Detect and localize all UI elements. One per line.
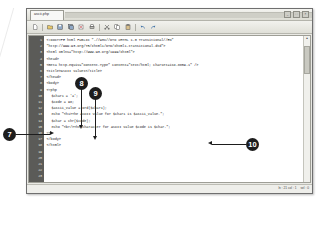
redo-arrow-icon[interactable]: [149, 23, 158, 32]
callout-10-arrowhead: [208, 141, 212, 145]
toolbar-separator: [42, 24, 43, 31]
tab-strip-filler: [65, 12, 312, 18]
toolbar-separator: [135, 24, 136, 31]
scissors-icon[interactable]: [102, 23, 111, 32]
callout-9-arrowhead: [93, 136, 97, 140]
figure-canvas: ascii.php _ □ ×: [0, 0, 327, 227]
save-all-icon[interactable]: [66, 23, 75, 32]
status-bar: ln : 21 col : 1 sel : 0: [27, 184, 312, 193]
toolbar-separator: [99, 24, 100, 31]
scrollbar-thumb[interactable]: [304, 46, 310, 74]
callout-8: 8: [75, 77, 88, 90]
close-button[interactable]: ×: [302, 11, 309, 18]
callout-7-arrowhead: [50, 131, 54, 135]
editor-pane[interactable]: 1 2 3 4 5 6 7 8 9 10 11 12 13 14 15 16 1…: [28, 35, 311, 183]
cursor-position-status: ln : 21 col : 1: [278, 187, 296, 190]
code-line: </html>: [47, 142, 302, 148]
file-tab-label: ascii.php: [34, 13, 49, 17]
callout-8-arrowhead: [79, 125, 83, 129]
selection-status: sel : 0: [300, 187, 309, 190]
open-folder-icon[interactable]: [45, 23, 54, 32]
toolbar: [27, 21, 312, 34]
code-editor-window: ascii.php _ □ ×: [26, 8, 313, 194]
undo-arrow-icon[interactable]: [138, 23, 147, 32]
new-file-icon[interactable]: [30, 23, 39, 32]
save-disk-icon[interactable]: [56, 23, 65, 32]
callout-10-leader: [212, 144, 246, 145]
maximize-button[interactable]: □: [293, 11, 300, 18]
code-text-area[interactable]: <!DOCTYPE html PUBLIC "-//W3C//DTD XHTML…: [44, 36, 304, 182]
close-file-icon[interactable]: [77, 23, 86, 32]
callout-7: 7: [3, 128, 16, 141]
callout-10: 10: [246, 138, 259, 151]
callout-7-leader: [16, 134, 50, 135]
vertical-scrollbar[interactable]: ▲: [303, 36, 310, 182]
line-number: 24: [38, 180, 42, 183]
callout-9: 9: [89, 87, 102, 100]
file-tab-ascii-php[interactable]: ascii.php: [30, 10, 64, 20]
window-controls: _ □ ×: [284, 11, 309, 18]
copy-icon[interactable]: [113, 23, 122, 32]
line-number-gutter: 1 2 3 4 5 6 7 8 9 10 11 12 13 14 15 16 1…: [29, 36, 44, 182]
scroll-up-arrow[interactable]: ▲: [305, 36, 309, 40]
callout-8-leader: [81, 89, 82, 126]
title-bar: ascii.php _ □ ×: [27, 9, 312, 21]
printer-icon[interactable]: [87, 23, 96, 32]
callout-9-leader: [95, 99, 96, 137]
clipboard-icon[interactable]: [123, 23, 132, 32]
minimize-button[interactable]: _: [284, 11, 291, 18]
